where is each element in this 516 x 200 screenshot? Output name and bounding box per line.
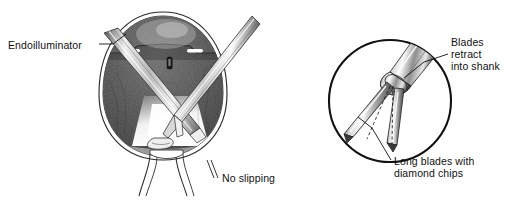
leader-no-slipping — [207, 160, 218, 178]
label-endoilluminator: Endoilluminator — [8, 39, 82, 51]
sclerotomy-right — [187, 49, 203, 52]
label-no-slipping: No slipping — [222, 172, 275, 184]
membrane-flap — [147, 138, 173, 149]
eye-cross-section — [95, 8, 260, 196]
label-blades-retract-into-shank: Blades retract into shank — [451, 36, 500, 73]
dome-highlight-core — [156, 22, 188, 38]
label-long-blades-with-diamond-chips: Long blades with diamond chips — [394, 155, 474, 179]
forceps-detail-circle — [329, 40, 451, 162]
vitreous-marker-icon — [167, 57, 172, 69]
